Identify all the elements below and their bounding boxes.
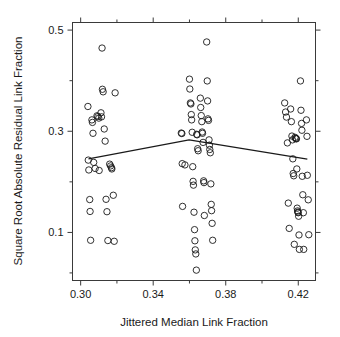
y-axis-title: Square Root Absolute Residual Link Fract… — [12, 37, 24, 266]
plot-canvas: 0.300.340.380.420.10.30.5 Jittered Media… — [0, 0, 340, 337]
axis-tick-labels: 0.300.340.380.420.10.30.5 — [48, 24, 309, 299]
data-point — [85, 103, 91, 109]
data-point — [112, 90, 118, 96]
x-tick-label: 0.42 — [288, 288, 309, 300]
data-point — [300, 192, 306, 198]
data-point — [192, 238, 198, 244]
data-point — [110, 192, 116, 198]
data-point — [111, 238, 117, 244]
data-point — [191, 209, 197, 215]
data-point — [101, 126, 107, 132]
data-point — [288, 118, 294, 124]
trend-line-group — [88, 140, 307, 159]
data-point — [301, 246, 307, 252]
x-tick-label: 0.30 — [70, 288, 91, 300]
data-point — [208, 201, 214, 207]
data-point — [90, 130, 96, 136]
data-point — [187, 86, 193, 92]
data-point — [294, 166, 300, 172]
data-point — [199, 118, 205, 124]
y-tick-label: 0.1 — [48, 226, 63, 238]
data-point — [103, 196, 109, 202]
data-point — [87, 196, 93, 202]
plot-frame — [73, 23, 316, 281]
data-point — [299, 127, 305, 133]
x-tick-label: 0.34 — [142, 288, 163, 300]
data-point — [96, 167, 102, 173]
data-point — [198, 104, 204, 110]
axis-ticks — [68, 18, 321, 286]
x-tick-label: 0.38 — [215, 288, 236, 300]
y-tick-label: 0.5 — [48, 24, 63, 36]
data-point — [306, 232, 312, 238]
data-point — [197, 95, 203, 101]
data-point — [304, 133, 310, 139]
data-point — [201, 212, 207, 218]
data-point — [92, 165, 98, 171]
data-point — [303, 117, 309, 123]
trend-line — [88, 140, 307, 159]
data-point — [198, 112, 204, 118]
data-point — [286, 225, 292, 231]
data-point — [191, 226, 197, 232]
data-point — [87, 208, 93, 214]
data-point — [204, 98, 210, 104]
data-point — [297, 78, 303, 84]
data-point — [208, 181, 214, 187]
data-point — [305, 197, 311, 203]
data-point — [102, 138, 108, 144]
x-axis-title: Jittered Median Link Fraction — [120, 316, 268, 328]
data-point — [99, 45, 105, 51]
data-point — [204, 78, 210, 84]
data-point — [291, 241, 297, 247]
data-point — [296, 232, 302, 238]
data-point — [87, 237, 93, 243]
data-point — [179, 203, 185, 209]
data-point — [91, 159, 97, 165]
data-point — [105, 237, 111, 243]
data-point — [298, 107, 304, 113]
data-point — [287, 106, 293, 112]
data-point — [190, 182, 196, 188]
scatter-plot-figure: 0.300.340.380.420.10.30.5 Jittered Media… — [0, 0, 340, 337]
y-tick-label: 0.3 — [48, 125, 63, 137]
data-point — [186, 76, 192, 82]
data-point — [209, 220, 215, 226]
data-point — [209, 237, 215, 243]
data-point — [281, 100, 287, 106]
data-point — [208, 207, 214, 213]
data-point — [86, 167, 92, 173]
data-point — [203, 39, 209, 45]
data-point — [190, 163, 196, 169]
data-point — [193, 251, 199, 257]
data-point-group — [85, 39, 312, 274]
data-point — [104, 209, 110, 215]
data-point — [285, 200, 291, 206]
data-point — [193, 267, 199, 273]
